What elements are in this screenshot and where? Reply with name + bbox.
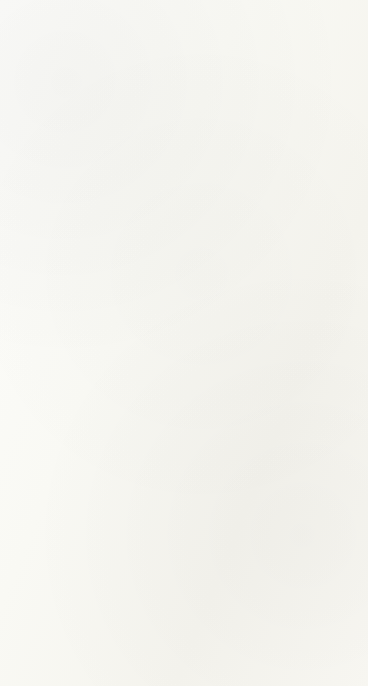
multi-panel-histogram [0, 0, 368, 686]
rotated-figure-frame [0, 0, 368, 686]
